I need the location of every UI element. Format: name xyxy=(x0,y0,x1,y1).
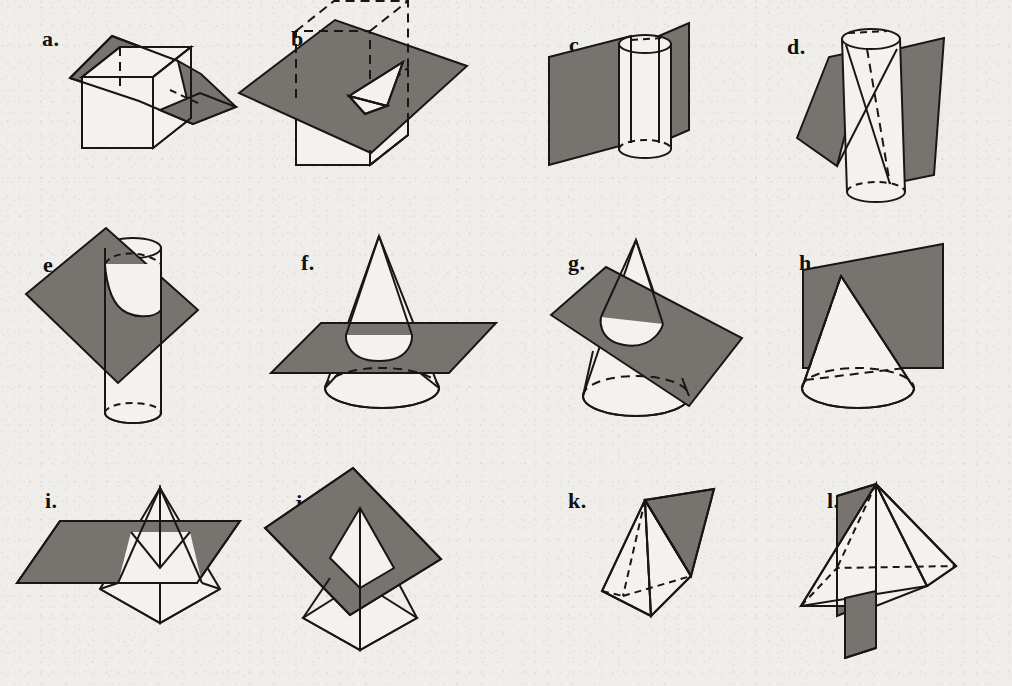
figure-f: f. xyxy=(253,228,506,458)
figure-a: a. xyxy=(0,0,253,228)
figure-a-drawing xyxy=(0,0,253,228)
figure-c-drawing xyxy=(506,0,759,228)
plane-l-lower xyxy=(845,591,876,658)
figure-f-drawing xyxy=(253,228,506,458)
figure-g: g. xyxy=(506,228,759,458)
figure-h: h. xyxy=(759,228,1012,458)
figure-k: k. xyxy=(506,458,759,686)
plane-e xyxy=(26,228,198,383)
plane-b xyxy=(239,20,467,153)
figure-d: d. xyxy=(759,0,1012,228)
figure-c: c. xyxy=(506,0,759,228)
figure-i: i. xyxy=(0,458,253,686)
cube-b-hidden-diag xyxy=(370,1,408,31)
figure-l-drawing xyxy=(759,458,1012,686)
figure-k-drawing xyxy=(506,458,759,686)
figure-l: l. xyxy=(759,458,1012,686)
figure-b: b. xyxy=(253,0,506,228)
figure-d-drawing xyxy=(759,0,1012,228)
figure-j-drawing xyxy=(253,458,506,686)
figure-e-drawing xyxy=(0,228,253,458)
figure-j: j. xyxy=(253,458,506,686)
cylinder-c-top xyxy=(619,35,671,53)
figure-b-drawing xyxy=(253,0,506,228)
figure-h-drawing xyxy=(759,228,1012,458)
figure-e: e. xyxy=(0,228,253,458)
figure-grid: a. b. xyxy=(0,0,1012,686)
figure-i-drawing xyxy=(0,458,253,686)
pyramid-k-left-face xyxy=(602,500,651,616)
figure-g-drawing xyxy=(506,228,759,458)
